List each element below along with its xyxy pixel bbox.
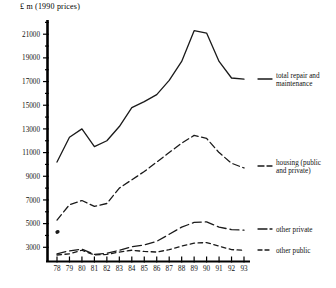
data-series-group xyxy=(57,31,244,255)
legend-group: total repair and maintenance housing (pu… xyxy=(258,72,321,255)
x-axis-tick-label: 86 xyxy=(153,265,161,273)
x-axis-tick-labels: 78798081828384858687888990919293 xyxy=(53,265,248,273)
line-chart-plot: 3000500070009000110001300015000170001900… xyxy=(0,0,336,288)
y-axis-tick-label: 7000 xyxy=(26,197,41,205)
x-axis-tick-label: 91 xyxy=(215,265,223,273)
x-axis-tick-label: 84 xyxy=(128,265,136,273)
x-axis-tick-label: 93 xyxy=(240,265,248,273)
x-axis-tick-label: 85 xyxy=(141,265,149,273)
x-axis-tick-label: 82 xyxy=(103,265,111,273)
legend-label-housing-line2: and private) xyxy=(276,167,311,175)
y-axis-tick-labels: 3000500070009000110001300015000170001900… xyxy=(22,31,40,252)
x-axis-tick-label: 80 xyxy=(78,265,86,273)
chart-container: £ m (1990 prices) 3000500070009000110001… xyxy=(0,0,336,288)
y-axis-tick-label: 5000 xyxy=(26,220,41,228)
y-axis-tick-label: 13000 xyxy=(22,126,40,134)
series-line-other-public xyxy=(57,243,244,255)
x-axis-tick-label: 81 xyxy=(91,265,99,273)
y-axis-tick-label: 21000 xyxy=(22,31,40,39)
series-line-total-repair-and-maintenance xyxy=(57,31,244,162)
legend-label-other-private: other private xyxy=(276,226,313,234)
x-axis-tick-label: 83 xyxy=(116,265,124,273)
x-axis-tick-label: 88 xyxy=(178,265,186,273)
x-axis-tick-label: 79 xyxy=(66,265,74,273)
y-axis-tick-label: 3000 xyxy=(26,244,41,252)
series-line-housing-public-and-private- xyxy=(57,135,244,220)
y-axis-tick-label: 11000 xyxy=(22,149,40,157)
legend-label-housing-line1: housing (public xyxy=(276,159,321,167)
scan-artifact-mark xyxy=(55,229,61,234)
x-axis-tick-label: 89 xyxy=(191,265,199,273)
legend-label-other-public: other public xyxy=(276,247,311,255)
x-axis-tick-label: 87 xyxy=(166,265,174,273)
x-axis-tick-label: 92 xyxy=(228,265,236,273)
x-axis-tick-label: 90 xyxy=(203,265,211,273)
y-axis-tick-label: 17000 xyxy=(22,78,40,86)
x-axis-tick-label: 78 xyxy=(53,265,61,273)
y-axis-tick-label: 15000 xyxy=(22,102,40,110)
legend-label-total-line1: total repair and xyxy=(276,72,320,80)
y-axis-tick-label: 9000 xyxy=(26,173,41,181)
legend-label-total-line2: maintenance xyxy=(276,80,312,88)
y-axis-tick-label: 19000 xyxy=(22,54,40,62)
scan-artifact-group xyxy=(55,229,61,234)
series-line-other-private xyxy=(57,222,244,255)
